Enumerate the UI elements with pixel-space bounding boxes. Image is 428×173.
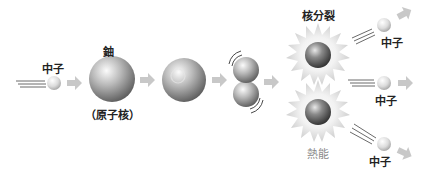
heat-label: 熱能 — [307, 145, 329, 161]
fission-burst-bottom — [286, 80, 350, 142]
neutron-out-2 — [377, 76, 391, 90]
neutron-out-label-1: 中子 — [381, 34, 403, 50]
neutron-out-label-3: 中子 — [369, 153, 391, 169]
fission-label: 核分裂 — [302, 7, 335, 23]
fission-burst-top — [286, 23, 350, 85]
neutron-out-3 — [377, 137, 391, 151]
neutron-label: 中子 — [42, 60, 64, 76]
neutron-out-1 — [377, 18, 391, 32]
neutron-incoming — [47, 76, 61, 90]
split-nucleus-top — [233, 57, 259, 83]
motion-lines-out-1 — [352, 29, 375, 44]
diagram-graphics — [0, 0, 428, 173]
uranium-label: 鈾 — [103, 43, 114, 59]
nuclear-fission-diagram: 中子 鈾 （原子核） 核分裂 熱能 中子 中子 中子 — [0, 0, 428, 173]
split-nucleus-bottom — [233, 81, 259, 107]
neutron-out-label-2: 中子 — [375, 92, 397, 108]
motion-lines-out-2 — [348, 80, 375, 86]
motion-lines-out-3 — [350, 124, 376, 144]
motion-lines — [16, 81, 46, 87]
nucleus-label: （原子核） — [85, 106, 140, 122]
uranium-nucleus — [89, 56, 135, 102]
